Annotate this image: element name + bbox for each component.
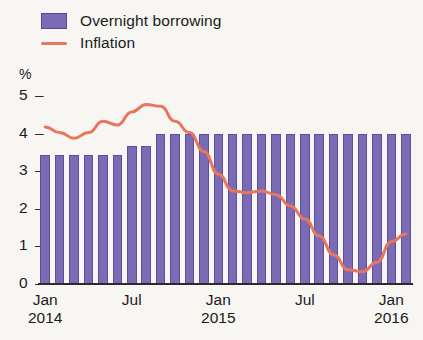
legend-label-inflation: Inflation	[80, 35, 135, 51]
x-axis-tick-jan-2015: Jan2015	[201, 291, 235, 328]
y-axis-tick-label: 0	[19, 275, 30, 291]
x-axis-line	[38, 283, 413, 285]
y-axis-tick-label: 2	[19, 200, 30, 216]
chart-legend: Overnight borrowing Inflation	[41, 10, 221, 54]
chart-container: Overnight borrowing Inflation % 5–4–3–2–…	[0, 0, 423, 340]
x-axis-month-label: Jul	[295, 291, 315, 309]
x-axis-month-label: Jul	[122, 291, 142, 309]
inflation-line-path	[45, 104, 406, 271]
line-series-inflation	[38, 95, 413, 283]
legend-swatch-overnight-borrowing	[41, 13, 67, 29]
y-axis-tick-label: 3	[19, 162, 30, 178]
x-axis-month-label: Jan	[201, 291, 235, 309]
x-axis-year-label: 2016	[374, 309, 408, 327]
legend-item-inflation: Inflation	[41, 32, 221, 54]
y-axis-tick-label: 1	[19, 238, 30, 254]
x-axis-month-label: Jan	[28, 291, 62, 309]
x-axis-year-label: 2015	[201, 309, 235, 327]
x-axis-tick-jan-2016: Jan2016	[374, 291, 408, 328]
y-axis-unit-label: %	[19, 67, 31, 81]
plot-area	[38, 95, 413, 283]
x-axis-year-label: 2014	[28, 309, 62, 327]
legend-label-overnight-borrowing: Overnight borrowing	[80, 13, 221, 29]
legend-line-stroke	[41, 42, 67, 45]
x-axis-month-label: Jan	[374, 291, 408, 309]
x-axis-tick-jan-2014: Jan2014	[28, 291, 62, 328]
y-axis-tick-label: 4	[19, 125, 30, 141]
legend-line-inflation	[41, 35, 67, 51]
legend-item-overnight-borrowing: Overnight borrowing	[41, 10, 221, 32]
x-axis-tick-jul: Jul	[122, 291, 142, 309]
x-axis-tick-jul: Jul	[295, 291, 315, 309]
y-axis-tick-label: 5	[19, 87, 30, 103]
